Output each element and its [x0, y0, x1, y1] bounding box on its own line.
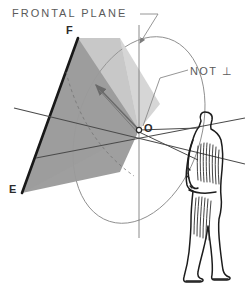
label-point-o: O — [144, 122, 153, 134]
label-point-e: E — [9, 183, 16, 195]
observer-figure — [184, 112, 230, 282]
shaded-frontal-plane — [22, 38, 139, 193]
label-frontal-plane: FRONTAL PLANE — [12, 7, 127, 19]
diagram-canvas: FRONTAL PLANE NOT ⊥ F O E — [0, 0, 245, 290]
label-not-perpendicular: NOT ⊥ — [190, 65, 233, 78]
point-o-marker — [136, 127, 141, 132]
label-point-f: F — [66, 24, 73, 36]
frontal-plane-leader — [140, 14, 158, 43]
diagram-svg — [0, 0, 245, 290]
